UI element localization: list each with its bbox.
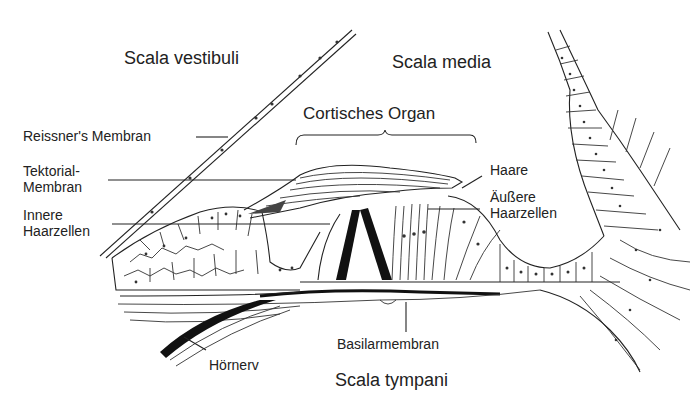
label-aeussere-haarzellen: Äußere Haarzellen — [490, 189, 557, 221]
pillar-cells — [318, 208, 392, 280]
label-basilarmembran: Basilarmembran — [337, 336, 439, 352]
label-scala-media: Scala media — [392, 52, 491, 73]
label-haare: Haare — [490, 162, 528, 178]
label-innere-line2: Haarzellen — [23, 223, 90, 239]
label-scala-tympani: Scala tympani — [335, 370, 448, 391]
label-hoernerv: Hörnerv — [209, 357, 259, 373]
label-scala-vestibuli: Scala vestibuli — [124, 48, 239, 69]
label-cortisches-organ: Cortisches Organ — [303, 104, 435, 124]
spiral-ligament — [548, 30, 690, 370]
limbus — [112, 207, 320, 290]
label-innere-line1: Innere — [23, 207, 63, 223]
label-aeussere-line1: Äußere — [490, 189, 536, 205]
cortisches-organ-bracket — [296, 130, 476, 145]
label-innere-haarzellen: Innere Haarzellen — [23, 207, 90, 239]
hoernerv-nerve — [160, 300, 276, 358]
label-reissner-membran: Reissner's Membran — [23, 128, 151, 144]
label-tektorial-membran: Tektorial- Membran — [23, 163, 82, 195]
label-aeussere-line2: Haarzellen — [490, 205, 557, 221]
label-tektorial-line1: Tektorial- — [23, 163, 80, 179]
label-tektorial-line2: Membran — [23, 179, 82, 195]
